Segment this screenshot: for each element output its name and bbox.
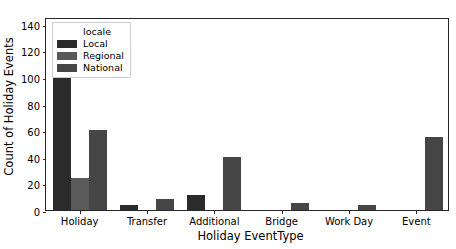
x-axis-tick-label: Transfer	[127, 216, 167, 227]
bar-additional-local	[187, 195, 205, 210]
legend-title: locale	[83, 26, 124, 37]
bar-bridge-national	[291, 203, 309, 210]
y-axis-tick	[43, 79, 47, 80]
legend: locale LocalRegionalNational	[52, 22, 131, 78]
x-axis-tick	[147, 210, 148, 214]
y-axis-tick-label: 40	[27, 153, 40, 164]
y-axis-tick	[43, 132, 47, 133]
x-axis-tick	[80, 210, 81, 214]
y-axis-tick	[43, 185, 47, 186]
y-axis-label: Count of Holiday Events	[2, 1, 16, 212]
y-axis-tick	[43, 106, 47, 107]
y-axis-tick-label: 80	[27, 100, 40, 111]
legend-item-local: Local	[57, 38, 124, 49]
y-axis-tick-label: 0	[34, 207, 40, 218]
x-axis-tick-label: Bridge	[265, 216, 298, 227]
y-axis-tick-label: 60	[27, 127, 40, 138]
bar-transfer-national	[156, 199, 174, 210]
x-axis-tick-label: Work Day	[325, 216, 373, 227]
bar-additional-national	[223, 157, 241, 210]
legend-label-local: Local	[83, 38, 108, 49]
y-axis-tick	[43, 212, 47, 213]
x-axis-tick-label: Additional	[189, 216, 239, 227]
y-axis-tick	[43, 52, 47, 53]
bar-holiday-local	[53, 60, 71, 210]
y-axis-tick-label: 120	[21, 47, 40, 58]
bar-holiday-national	[89, 130, 107, 210]
bar-event-national	[425, 137, 443, 210]
y-axis-tick-label: 20	[27, 180, 40, 191]
bar-holiday-regional	[71, 178, 89, 210]
y-axis-tick-label: 140	[21, 20, 40, 31]
legend-swatch-national	[57, 64, 77, 72]
y-axis-tick	[43, 26, 47, 27]
y-axis-tick-label: 100	[21, 73, 40, 84]
bar-chart-figure: Count of Holiday Events 0204060801001201…	[0, 0, 456, 249]
legend-entries: LocalRegionalNational	[57, 38, 124, 73]
legend-item-regional: Regional	[57, 50, 124, 61]
x-axis-tick	[214, 210, 215, 214]
legend-label-national: National	[83, 62, 123, 73]
x-axis-tick	[282, 210, 283, 214]
bar-transfer-local	[120, 205, 138, 210]
x-axis-tick-label: Holiday	[61, 216, 99, 227]
legend-swatch-local	[57, 40, 77, 48]
x-axis-tick-label: Event	[402, 216, 431, 227]
x-axis-tick	[416, 210, 417, 214]
legend-swatch-regional	[57, 52, 77, 60]
legend-item-national: National	[57, 62, 124, 73]
bar-work-day-national	[358, 205, 376, 210]
legend-label-regional: Regional	[83, 50, 124, 61]
y-axis-tick	[43, 159, 47, 160]
x-axis-tick	[349, 210, 350, 214]
x-axis-label: Holiday EventType	[45, 229, 456, 243]
